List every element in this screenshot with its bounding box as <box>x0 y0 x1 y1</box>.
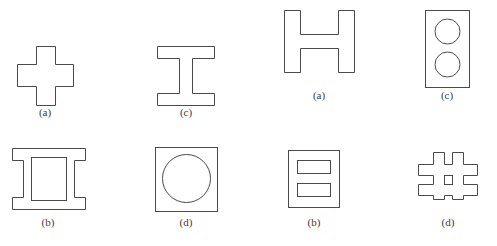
i-beam-shape <box>158 47 215 106</box>
hollow-i-beam-shape <box>13 149 86 210</box>
figure-caption-rect-two-holes-section: (c) <box>431 90 463 101</box>
hash-grid-shape <box>419 153 478 200</box>
figure-caption-h-section: (a) <box>303 90 335 101</box>
figure-caption-rect-one-hole-section: (d) <box>170 217 202 228</box>
figure-caption-hollow-i-box-section: (b) <box>32 217 64 228</box>
figure-caption-hash-section: (d) <box>432 217 464 228</box>
rectangle-two-circular-holes-shape <box>426 11 470 88</box>
figure-canvas <box>0 0 497 246</box>
plus-cross-shape <box>18 47 74 106</box>
square-two-slots-shape <box>289 151 340 208</box>
figure-caption-square-two-slots-section: (b) <box>298 217 330 228</box>
rectangle-circular-hole-shape <box>156 148 218 212</box>
figure-caption-i-beam-section: (c) <box>170 107 202 118</box>
figure-caption-cross-plus-section: (a) <box>29 107 61 118</box>
h-beam-shape <box>285 11 355 73</box>
